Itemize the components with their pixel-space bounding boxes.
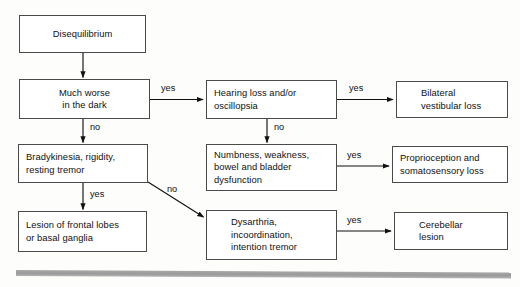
edge-label-bradykinesia-yes: yes	[90, 189, 104, 199]
node-hearing-loss-and-or-oscillopsia[interactable]: Hearing loss and/or oscillopsia	[206, 80, 337, 119]
node-line: intention tremor	[231, 241, 297, 253]
node-lesion-of-frontal-lobes-or-basal-ganglia[interactable]: Lesion of frontal lobes or basal ganglia	[18, 211, 147, 252]
node-bilateral-vestibular-loss[interactable]: Bilateral vestibular loss	[396, 81, 508, 118]
edge-label-much-worse-no: no	[90, 122, 100, 132]
node-disequilibrium[interactable]: Disequilibrium	[19, 15, 146, 53]
flowchart-page: Disequilibrium Much worse in the dark Br…	[0, 0, 520, 287]
node-line: or basal ganglia	[26, 232, 93, 244]
node-line: incoordination,	[231, 229, 293, 241]
edge-label-hearing-loss-yes: yes	[349, 83, 363, 93]
node-line: Lesion of frontal lobes	[26, 219, 119, 231]
node-line: bowel and bladder	[214, 161, 291, 173]
node-line: Proprioception and	[400, 152, 480, 164]
node-line: Disequilibrium	[53, 28, 113, 40]
node-line: lesion	[419, 231, 444, 243]
node-numbness-weakness-bowel-and-bladder-dysfunction[interactable]: Numbness, weakness, bowel and bladder dy…	[206, 144, 337, 191]
node-line: Hearing loss and/or	[214, 87, 296, 99]
node-line: Bradykinesia, rigidity,	[26, 151, 115, 163]
node-line: dysfunction	[214, 174, 262, 186]
node-line: vestibular loss	[421, 100, 481, 112]
edge-label-hearing-loss-no: no	[274, 122, 284, 132]
node-line: Dysarthria,	[231, 216, 277, 228]
node-line: Bilateral	[421, 87, 455, 99]
node-bradykinesia-rigidity-resting-tremor[interactable]: Bradykinesia, rigidity, resting tremor	[18, 144, 148, 183]
node-much-worse-in-the-dark[interactable]: Much worse in the dark	[19, 79, 150, 119]
edge-label-dysarthria-yes: yes	[347, 215, 361, 225]
edge-label-much-worse-yes: yes	[161, 83, 175, 93]
node-proprioception-and-somatosensory-loss[interactable]: Proprioception and somatosensory loss	[392, 146, 508, 183]
node-cerebellar-lesion[interactable]: Cerebellar lesion	[394, 212, 508, 250]
edge-label-bradykinesia-no: no	[167, 184, 177, 194]
node-line: in the dark	[62, 99, 106, 111]
node-line: Much worse	[59, 87, 110, 99]
node-dysarthria-incoordination-intention-tremor[interactable]: Dysarthria, incoordination, intention tr…	[206, 210, 337, 260]
node-line: Cerebellar	[419, 219, 463, 231]
edge-label-numbness-yes: yes	[347, 150, 361, 160]
node-line: resting tremor	[26, 164, 85, 176]
node-line: oscillopsia	[214, 100, 258, 112]
node-line: somatosensory loss	[400, 165, 484, 177]
node-line: Numbness, weakness,	[214, 149, 309, 161]
